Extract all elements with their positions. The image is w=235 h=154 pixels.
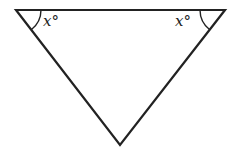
angle-arc-left — [32, 10, 42, 30]
triangle-shape — [16, 10, 225, 145]
angle-label-right: x° — [175, 12, 191, 30]
triangle-diagram: x° x° — [0, 0, 235, 154]
angle-arc-right — [200, 10, 210, 30]
angle-label-left: x° — [43, 12, 59, 30]
